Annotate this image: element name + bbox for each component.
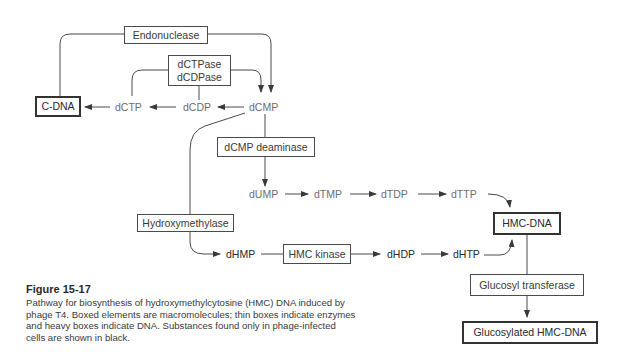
enzyme-label: Hydroxymethylase <box>142 217 228 230</box>
dna-hmc-dna: HMC-DNA <box>493 212 561 235</box>
metabolite-dump: dUMP <box>249 188 278 200</box>
metabolite-dttp: dTTP <box>451 188 477 200</box>
metabolite-dctp: dCTP <box>115 101 142 113</box>
enzyme-label: Endonuclease <box>133 29 200 42</box>
enzyme-label: dCMP deaminase <box>224 141 307 154</box>
enzyme-dcmp-deaminase: dCMP deaminase <box>217 137 315 157</box>
metabolite-dhtp: dHTP <box>453 248 480 260</box>
figure-caption: Figure 15-17 Pathway for biosynthesis of… <box>26 283 356 343</box>
dna-glucosylated-hmc-dna: Glucosylated HMC-DNA <box>462 321 598 344</box>
dna-label: C-DNA <box>41 100 74 113</box>
metabolite-dtdp: dTDP <box>381 188 408 200</box>
metabolite-dhmp: dHMP <box>226 248 255 260</box>
dna-label: HMC-DNA <box>502 217 552 230</box>
enzyme-endonuclease: Endonuclease <box>124 26 208 44</box>
enzyme-glucosyl-transferase: Glucosyl transferase <box>470 274 584 296</box>
metabolite-dcmp: dCMP <box>249 101 278 113</box>
enzyme-label: Glucosyl transferase <box>479 279 575 292</box>
enzyme-label: dCDPase <box>177 71 222 84</box>
enzyme-hydroxymethylase: Hydroxymethylase <box>137 214 234 232</box>
pathway-diagram: Endonuclease dCTPase dCDPase dCMP deamin… <box>0 0 623 352</box>
metabolite-dhdp: dHDP <box>387 248 415 260</box>
enzyme-dctpase-dcdpase: dCTPase dCDPase <box>168 55 231 86</box>
metabolite-dtmp: dTMP <box>314 188 342 200</box>
enzyme-label: dCTPase <box>178 58 222 71</box>
metabolite-dcdp: dCDP <box>183 101 211 113</box>
figure-caption-text: Pathway for biosynthesis of hydroxymethy… <box>26 297 356 343</box>
dna-label: Glucosylated HMC-DNA <box>473 326 586 339</box>
dna-c-dna: C-DNA <box>35 96 81 117</box>
figure-title: Figure 15-17 <box>26 283 356 296</box>
enzyme-hmc-kinase: HMC kinase <box>283 244 351 264</box>
enzyme-label: HMC kinase <box>288 248 345 261</box>
